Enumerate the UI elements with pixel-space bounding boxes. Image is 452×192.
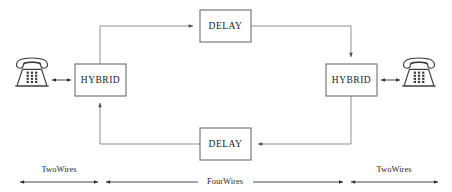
diagram-canvas: DELAY HYBRID HYBRID DELAY — [0, 0, 452, 192]
telephone-left-icon — [15, 58, 48, 86]
hybrid-delay-diagram: DELAY HYBRID HYBRID DELAY — [0, 0, 452, 192]
delay-top-label: DELAY — [209, 21, 243, 31]
span-right-twowire: TwoWires — [351, 164, 438, 182]
delay-bottom-label: DELAY — [209, 139, 243, 149]
block-hybrid-left[interactable]: HYBRID — [75, 64, 126, 96]
telephone-right-icon — [402, 58, 435, 86]
span-right-label: TwoWires — [377, 164, 412, 174]
span-center-label: FourWires — [207, 176, 243, 186]
wire-right-hybrid-to-bottom-delay — [258, 96, 351, 144]
telephone-left-keypad — [27, 72, 38, 83]
wire-top-delay-to-right-hybrid — [251, 26, 351, 57]
wire-left-hybrid-to-top-delay — [100, 26, 193, 64]
hybrid-right-label: HYBRID — [332, 75, 371, 85]
block-hybrid-right[interactable]: HYBRID — [326, 64, 377, 96]
telephone-right-keypad — [414, 72, 425, 83]
block-delay-top[interactable]: DELAY — [200, 10, 251, 42]
block-delay-bottom[interactable]: DELAY — [200, 128, 251, 160]
span-left-twowire: TwoWires — [20, 164, 98, 182]
hybrid-left-label: HYBRID — [81, 75, 120, 85]
wire-bottom-delay-to-left-hybrid — [100, 103, 200, 144]
span-center-fourwire: FourWires — [106, 176, 343, 186]
span-left-label: TwoWires — [42, 164, 77, 174]
